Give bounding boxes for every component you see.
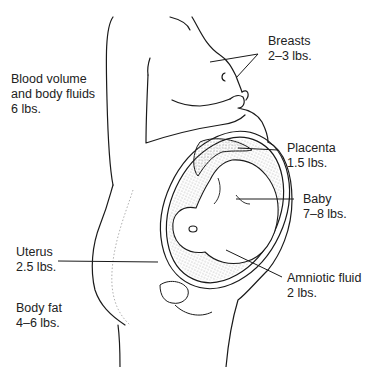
label-uterus: Uterus 2.5 lbs.	[16, 245, 56, 275]
label-blood-volume: Blood volume and body fluids 6 lbs.	[11, 72, 95, 117]
chest-outline	[192, 17, 242, 92]
amniotic-name: Amniotic fluid	[287, 271, 361, 286]
uterus-name: Uterus	[16, 245, 56, 260]
leader-breasts	[210, 54, 258, 78]
amniotic-value: 2 lbs.	[287, 286, 361, 301]
pelvis	[160, 281, 188, 303]
breast-contour	[242, 91, 248, 100]
label-amniotic-fluid: Amniotic fluid 2 lbs.	[287, 271, 361, 301]
baby-value: 7–8 lbs.	[303, 207, 347, 222]
back-outline	[106, 17, 113, 185]
label-placenta: Placenta 1.5 lbs.	[287, 141, 336, 171]
breasts-name: Breasts	[268, 34, 312, 49]
bodyfat-name: Body fat	[16, 301, 62, 316]
back-lower	[92, 185, 125, 325]
baby-name: Baby	[303, 192, 347, 207]
breasts-value: 2–3 lbs.	[268, 49, 312, 64]
placenta-name: Placenta	[287, 141, 336, 156]
thigh-back	[118, 325, 120, 367]
bodyfat-value: 4–6 lbs.	[16, 316, 62, 331]
hand	[230, 96, 268, 142]
label-body-fat: Body fat 4–6 lbs.	[16, 301, 62, 331]
arm-outline	[170, 17, 190, 30]
pelvis-2	[175, 305, 212, 315]
label-breasts: Breasts 2–3 lbs.	[268, 34, 312, 64]
label-baby: Baby 7–8 lbs.	[303, 192, 347, 222]
forearm-line	[172, 99, 230, 106]
blood-name-line1: Blood volume	[11, 72, 95, 87]
leader-uterus	[58, 261, 158, 262]
body-fat-line	[112, 190, 133, 325]
blood-name-line2: and body fluids	[11, 87, 95, 102]
placenta-value: 1.5 lbs.	[287, 156, 336, 171]
upper-arm-line	[148, 58, 150, 75]
blood-value: 6 lbs.	[11, 102, 95, 117]
nipple	[222, 73, 225, 81]
uterus-value: 2.5 lbs.	[16, 260, 56, 275]
